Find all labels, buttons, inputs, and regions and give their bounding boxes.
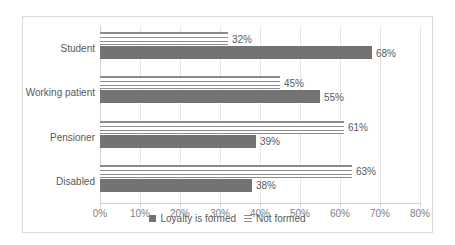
x-axis-tick bbox=[380, 203, 381, 207]
bar-value-label-not-formed: 61% bbox=[344, 122, 368, 133]
x-axis-tick bbox=[300, 203, 301, 207]
bar-loyalty-is-formed[interactable]: 68% bbox=[100, 46, 372, 59]
x-axis-tick-label: 80% bbox=[410, 208, 430, 219]
legend-swatch-solid-icon bbox=[149, 215, 156, 222]
x-axis-tick bbox=[180, 203, 181, 207]
bar-value-label-not-formed: 32% bbox=[228, 33, 252, 44]
x-axis-tick-label: 0% bbox=[93, 208, 107, 219]
category-axis-label: Working patient bbox=[26, 87, 95, 98]
category-group: Student32%68% bbox=[100, 26, 455, 70]
x-axis-tick-label: 50% bbox=[290, 208, 310, 219]
x-axis-tick bbox=[140, 203, 141, 207]
bar-not-formed[interactable]: 61% bbox=[100, 121, 344, 134]
bar-fill bbox=[100, 165, 352, 178]
x-axis-tick-label: 20% bbox=[170, 208, 190, 219]
category-group: Pensioner61%39% bbox=[100, 115, 455, 159]
bar-value-label-loyalty-is-formed: 39% bbox=[256, 136, 280, 147]
bar-fill bbox=[100, 46, 372, 59]
plot-area: Student32%68%Working patient45%55%Pensio… bbox=[100, 26, 420, 203]
bar-value-label-not-formed: 45% bbox=[280, 77, 304, 88]
x-axis-tick-label: 30% bbox=[210, 208, 230, 219]
x-axis-tick bbox=[340, 203, 341, 207]
bar-not-formed[interactable]: 45% bbox=[100, 76, 280, 89]
bar-not-formed[interactable]: 63% bbox=[100, 165, 352, 178]
x-axis-tick-label: 60% bbox=[330, 208, 350, 219]
bar-fill bbox=[100, 90, 320, 103]
chart-container: Student32%68%Working patient45%55%Pensio… bbox=[22, 16, 433, 233]
bar-fill bbox=[100, 76, 280, 89]
category-group: Disabled63%38% bbox=[100, 159, 455, 203]
x-axis-tick bbox=[260, 203, 261, 207]
bar-fill bbox=[100, 121, 344, 134]
bar-loyalty-is-formed[interactable]: 39% bbox=[100, 135, 256, 148]
bar-value-label-not-formed: 63% bbox=[352, 166, 376, 177]
bar-not-formed[interactable]: 32% bbox=[100, 32, 228, 45]
bar-value-label-loyalty-is-formed: 68% bbox=[372, 47, 396, 58]
x-axis-tick bbox=[420, 203, 421, 207]
bar-fill bbox=[100, 135, 256, 148]
category-axis-label: Disabled bbox=[56, 175, 95, 186]
bar-fill bbox=[100, 32, 228, 45]
category-axis-label: Student bbox=[61, 43, 95, 54]
category-group: Working patient45%55% bbox=[100, 70, 455, 114]
x-axis-tick-label: 40% bbox=[250, 208, 270, 219]
x-axis-tick bbox=[100, 203, 101, 207]
x-axis-tick-label: 10% bbox=[130, 208, 150, 219]
category-axis-label: Pensioner bbox=[50, 131, 95, 142]
bar-value-label-loyalty-is-formed: 38% bbox=[252, 180, 276, 191]
bar-value-label-loyalty-is-formed: 55% bbox=[320, 91, 344, 102]
bar-loyalty-is-formed[interactable]: 38% bbox=[100, 179, 252, 192]
bar-fill bbox=[100, 179, 252, 192]
x-axis-tick-label: 70% bbox=[370, 208, 390, 219]
bar-loyalty-is-formed[interactable]: 55% bbox=[100, 90, 320, 103]
x-axis-tick bbox=[220, 203, 221, 207]
